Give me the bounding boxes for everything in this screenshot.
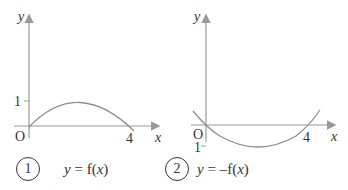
graph-1-origin: O bbox=[15, 130, 25, 144]
graph-2-x-label: x bbox=[331, 130, 337, 144]
option-1-equation: y = f(x) bbox=[64, 162, 108, 177]
graph-2-y-label: y bbox=[194, 10, 200, 24]
graph-1-axes bbox=[14, 16, 158, 138]
graph-2-y-tick-label: 1 bbox=[194, 141, 201, 155]
graph-1-y-tick-label: 1 bbox=[14, 95, 21, 109]
graph-2-curve bbox=[193, 110, 320, 147]
graph-1-y-label: y bbox=[18, 10, 24, 24]
graph-1-x-tick-label: 4 bbox=[126, 132, 133, 146]
graph-1-x-label: x bbox=[155, 131, 161, 145]
option-2-equation: y = –f(x) bbox=[197, 162, 249, 177]
graph-2-x-tick-label: 4 bbox=[303, 131, 310, 145]
option-2-number: 2 bbox=[165, 157, 189, 181]
graph-1-curve bbox=[29, 102, 134, 131]
graph-2-axes bbox=[191, 16, 334, 146]
option-1-number: 1 bbox=[16, 157, 40, 181]
